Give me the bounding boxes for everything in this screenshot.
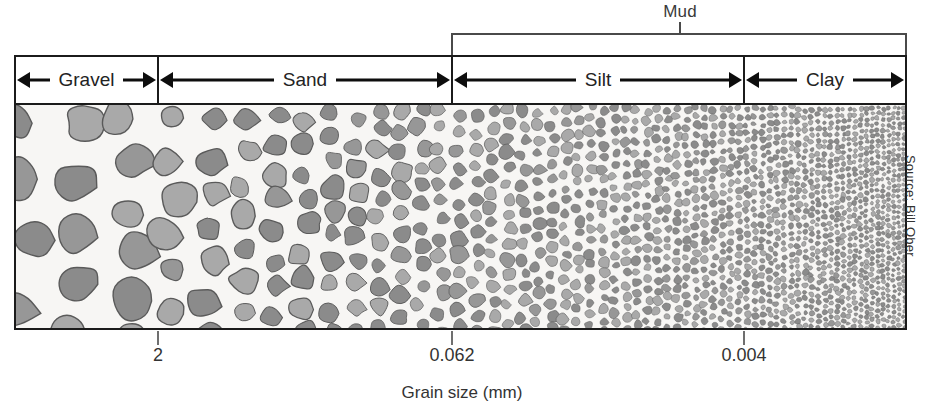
- tick-label-2: 2: [153, 345, 163, 366]
- tick-mark-0004: [743, 331, 745, 345]
- arrow-right-icon: [891, 72, 904, 88]
- arrow-right-icon: [437, 72, 450, 88]
- class-label-silt: Silt: [576, 69, 620, 91]
- arrow-left-icon: [17, 72, 30, 88]
- arrow-right-icon: [729, 72, 742, 88]
- mud-group-label: Mud: [638, 2, 722, 22]
- mud-bracket: [451, 33, 907, 57]
- arrow-right-icon: [143, 72, 156, 88]
- tick-mark-0062: [451, 331, 453, 345]
- class-span-clay: Clay: [745, 55, 905, 105]
- tick-label-0004: 0.004: [721, 345, 766, 366]
- band-right-edge: [905, 55, 907, 105]
- source-credit: Source: Bill Ober: [903, 155, 918, 257]
- class-label-clay: Clay: [797, 69, 853, 91]
- grain-size-figure: Mud Gravel Sand Silt Clay 2 0.062: [0, 0, 944, 417]
- arrow-left-icon: [160, 72, 173, 88]
- class-span-silt: Silt: [453, 55, 743, 105]
- tick-label-0062: 0.062: [429, 345, 474, 366]
- tick-mark-2: [157, 331, 159, 345]
- arrow-left-icon: [454, 72, 467, 88]
- class-label-sand: Sand: [274, 69, 336, 91]
- class-span-gravel: Gravel: [16, 55, 157, 105]
- arrow-left-icon: [746, 72, 759, 88]
- axis-title: Grain size (mm): [402, 383, 523, 403]
- class-label-gravel: Gravel: [50, 69, 124, 91]
- grain-illustration: [16, 105, 905, 328]
- class-span-sand: Sand: [159, 55, 451, 105]
- grain-illustration-panel: [14, 105, 907, 330]
